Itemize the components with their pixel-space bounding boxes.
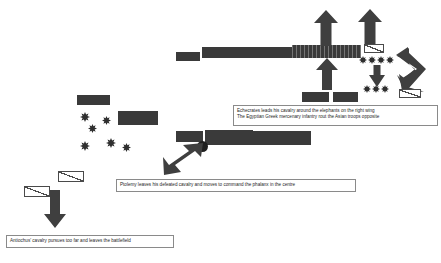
infantry-block <box>118 111 158 125</box>
elephant-unit-symbol[interactable] <box>102 116 111 125</box>
cavalry-unit-symbol[interactable] <box>399 89 421 98</box>
battle-diagram-canvas: Echecrates leads his cavalry around the … <box>0 0 441 263</box>
movement-arrow <box>316 58 338 90</box>
caption-line: Antiochus' cavalry pursues too far and l… <box>10 238 170 244</box>
caption-left-wing: Antiochus' cavalry pursues too far and l… <box>6 235 174 248</box>
infantry-block <box>202 47 294 58</box>
movement-arrow <box>369 65 385 87</box>
elephant-unit-symbol[interactable] <box>368 56 376 64</box>
caption-right-wing: Echecrates leads his cavalry around the … <box>233 105 438 126</box>
infantry-block <box>77 95 110 105</box>
elephant-unit-symbol[interactable] <box>106 138 116 148</box>
elephant-unit-symbol[interactable] <box>80 112 90 122</box>
infantry-block <box>302 92 329 102</box>
infantry-block <box>176 52 200 61</box>
cavalry-unit-symbol[interactable] <box>58 171 84 182</box>
hatched-infantry-block <box>292 45 361 58</box>
caption-line: Ptolemy leaves his defeated cavalry and … <box>120 182 352 188</box>
movement-arrow <box>163 143 203 175</box>
elephant-unit-symbol[interactable] <box>377 56 385 64</box>
infantry-block <box>253 131 311 145</box>
flanking-elbow-arrow <box>396 47 436 92</box>
caption-centre: Ptolemy leaves his defeated cavalry and … <box>116 179 356 192</box>
infantry-block <box>333 92 358 102</box>
cavalry-unit-symbol[interactable] <box>364 44 384 53</box>
elephant-unit-symbol[interactable] <box>386 56 394 64</box>
elephant-unit-symbol[interactable] <box>80 141 90 151</box>
infantry-block <box>205 130 253 145</box>
caption-line: The Egyptian Greek mercenary infantry ro… <box>237 114 434 120</box>
elephant-unit-symbol[interactable] <box>88 124 97 133</box>
movement-arrow <box>358 9 382 46</box>
elephant-unit-symbol[interactable] <box>122 143 131 152</box>
infantry-block <box>176 131 203 142</box>
movement-arrow <box>44 190 66 228</box>
movement-arrow <box>314 10 338 46</box>
